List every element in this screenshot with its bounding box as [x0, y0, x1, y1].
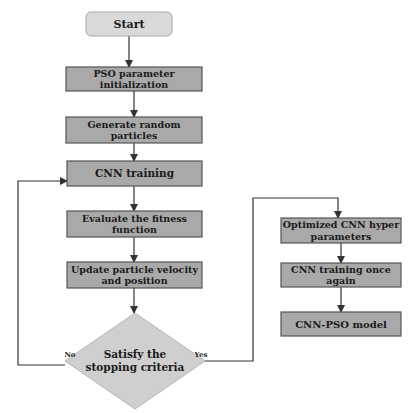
node-label: Start: [113, 18, 145, 31]
node-label: CNN training: [95, 167, 175, 179]
edge-stopping-criteria-to-cnn-training: [18, 181, 67, 365]
node-label: CNN-PSO model: [295, 319, 387, 330]
nodes-layer: StartPSO parameterinitializationGenerate…: [65, 12, 401, 409]
node-label: Generate random: [87, 119, 180, 130]
node-stopping-criteria: Satisfy thestopping criteria: [65, 313, 205, 409]
node-cnn-pso-model: CNN-PSO model: [281, 312, 401, 336]
node-label: again: [326, 275, 356, 286]
node-label: Satisfy the: [104, 348, 167, 360]
node-label: Evaluate the fitness: [82, 213, 187, 224]
node-label: CNN training once: [291, 264, 391, 275]
node-pso-init: PSO parameterinitialization: [66, 67, 202, 91]
node-label: and position: [101, 275, 167, 286]
edge-label-yes: Yes: [194, 350, 208, 359]
node-label: particles: [111, 130, 158, 141]
node-label: Update particle velocity: [71, 264, 198, 275]
node-label: stopping criteria: [86, 361, 185, 373]
node-start: Start: [86, 12, 172, 36]
flowchart: StartPSO parameterinitializationGenerate…: [0, 0, 419, 413]
node-label: PSO parameter: [93, 68, 175, 79]
node-label: initialization: [100, 79, 168, 90]
node-optimized-params: Optimized CNN hyperparameters: [281, 218, 401, 243]
node-cnn-training: CNN training: [67, 161, 202, 186]
node-update-particle: Update particle velocityand position: [67, 262, 202, 288]
edge-label-no: No: [64, 350, 75, 359]
node-label: parameters: [311, 231, 372, 242]
node-gen-particles: Generate randomparticles: [66, 117, 202, 143]
node-label: function: [112, 224, 157, 235]
node-cnn-retrain: CNN training onceagain: [281, 263, 401, 287]
node-label: Optimized CNN hyper: [283, 219, 400, 230]
node-eval-fitness: Evaluate the fitnessfunction: [67, 211, 202, 237]
